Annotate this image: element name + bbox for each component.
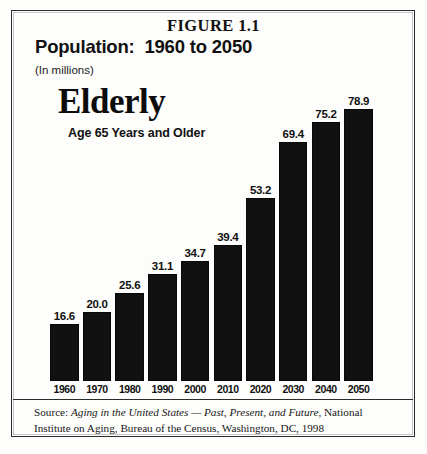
figure-caption: FIGURE 1.1 bbox=[0, 16, 427, 36]
axis-tick-label: 1990 bbox=[148, 383, 177, 395]
bar: 20.0 bbox=[83, 312, 112, 381]
bar: 78.9 bbox=[344, 109, 373, 381]
bar-value-label: 75.2 bbox=[315, 108, 336, 120]
bar-value-label: 16.6 bbox=[54, 310, 75, 322]
source-prefix: Source: bbox=[34, 406, 71, 418]
bar-chart-plot: 16.620.025.631.134.739.453.269.475.278.9 bbox=[50, 88, 377, 381]
bar-value-label: 69.4 bbox=[283, 128, 304, 140]
bar: 69.4 bbox=[279, 142, 308, 381]
bar-value-label: 31.1 bbox=[152, 260, 173, 272]
bar: 31.1 bbox=[148, 274, 177, 381]
axis-tick-label: 1980 bbox=[115, 383, 144, 395]
page-title: Population: 1960 to 2050 bbox=[35, 36, 252, 58]
bar: 53.2 bbox=[246, 198, 275, 381]
axis-tick-label: 2030 bbox=[279, 383, 308, 395]
bar: 25.6 bbox=[115, 293, 144, 381]
bar-value-label: 25.6 bbox=[119, 279, 140, 291]
axis-tick-label: 2020 bbox=[246, 383, 275, 395]
axis-tick-label: 2000 bbox=[181, 383, 210, 395]
category-axis: 1960197019801990200020102020203020402050 bbox=[50, 383, 377, 397]
bar: 16.6 bbox=[50, 324, 79, 381]
bar: 39.4 bbox=[214, 245, 243, 381]
units-note: (In millions) bbox=[35, 64, 94, 76]
figure-root: FIGURE 1.1 Population: 1960 to 2050 (In … bbox=[0, 0, 427, 454]
bar: 34.7 bbox=[181, 261, 210, 381]
bar: 75.2 bbox=[312, 122, 341, 381]
bar-value-label: 53.2 bbox=[250, 184, 271, 196]
source-divider bbox=[13, 399, 413, 400]
bar-value-label: 39.4 bbox=[217, 231, 238, 243]
axis-tick-label: 1970 bbox=[83, 383, 112, 395]
source-note: Source: Aging in the United States — Pas… bbox=[34, 405, 389, 437]
axis-tick-label: 2010 bbox=[214, 383, 243, 395]
axis-tick-label: 2040 bbox=[312, 383, 341, 395]
bar-value-label: 34.7 bbox=[185, 247, 206, 259]
bar-value-label: 20.0 bbox=[86, 298, 107, 310]
source-publication: Aging in the United States — Past, Prese… bbox=[71, 406, 318, 418]
bar-value-label: 78.9 bbox=[348, 95, 369, 107]
axis-tick-label: 1960 bbox=[50, 383, 79, 395]
axis-tick-label: 2050 bbox=[344, 383, 373, 395]
